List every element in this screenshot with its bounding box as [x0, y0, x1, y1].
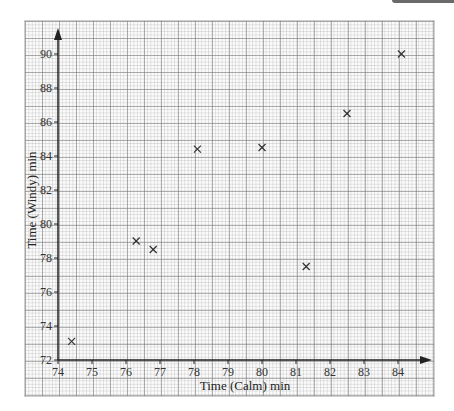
x-tick-label: 74: [52, 365, 64, 379]
cross-marker-icon: [194, 146, 201, 153]
x-tick-label: 76: [120, 365, 132, 379]
y-tick-label: 72: [40, 353, 52, 367]
x-tick-label: 77: [154, 365, 166, 379]
x-tick-label: 81: [290, 365, 302, 379]
cross-marker-icon: [150, 246, 157, 253]
cross-marker-icon: [344, 110, 351, 117]
x-axis-ticks: 7475767778798081828384: [52, 360, 404, 379]
y-tick-label: 90: [40, 47, 52, 61]
x-tick-label: 82: [324, 365, 336, 379]
x-axis-arrow-icon: [420, 356, 432, 364]
x-tick-label: 78: [188, 365, 200, 379]
cross-marker-icon: [303, 263, 310, 270]
y-tick-label: 78: [40, 251, 52, 265]
scatter-plot: 72747678808284868890 7475767778798081828…: [0, 0, 454, 411]
y-tick-label: 76: [40, 285, 52, 299]
y-tick-label: 74: [40, 319, 52, 333]
y-tick-label: 84: [40, 149, 52, 163]
x-tick-label: 75: [86, 365, 98, 379]
y-tick-label: 86: [40, 115, 52, 129]
y-axis-ticks: 72747678808284868890: [40, 47, 58, 367]
y-axis-title: Time (Windy) min: [24, 151, 39, 249]
x-axis-title: Time (Calm) min: [200, 378, 291, 393]
cross-marker-icon: [133, 238, 140, 245]
y-tick-label: 82: [40, 183, 52, 197]
x-tick-label: 79: [222, 365, 234, 379]
cross-marker-icon: [398, 51, 405, 58]
x-tick-label: 80: [256, 365, 268, 379]
axes: [54, 28, 432, 364]
data-points: [68, 51, 405, 345]
x-tick-label: 83: [358, 365, 370, 379]
y-tick-label: 88: [40, 81, 52, 95]
x-tick-label: 84: [392, 365, 404, 379]
y-axis-arrow-icon: [54, 28, 62, 40]
cross-marker-icon: [68, 338, 75, 345]
cross-marker-icon: [259, 144, 266, 151]
y-tick-label: 80: [40, 217, 52, 231]
